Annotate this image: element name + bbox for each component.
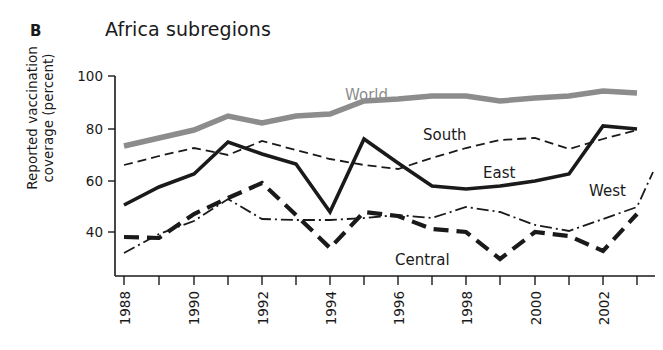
y-tick-label-80: 80 (86, 121, 103, 137)
series-line-west (124, 172, 653, 253)
y-tick-label-40: 40 (86, 224, 103, 240)
x-tick-label-1994: 1994 (323, 291, 339, 325)
series-label-south: South (423, 126, 467, 144)
x-tick-label-1990: 1990 (186, 291, 202, 325)
series-line-central (124, 183, 637, 259)
x-tick-label-1998: 1998 (459, 291, 475, 325)
series-label-west: West (589, 182, 626, 200)
x-tick-label-1988: 1988 (117, 291, 133, 325)
series-label-central: Central (395, 251, 450, 269)
x-tick-label-1996: 1996 (391, 291, 407, 325)
series-line-east (124, 126, 637, 212)
x-tick-label-2002: 2002 (596, 291, 612, 325)
y-tick-label-100: 100 (77, 68, 103, 84)
plot-area: 100 80 60 40 1988 1990 1992 1994 1 (0, 0, 663, 350)
y-tick-label-60: 60 (86, 173, 103, 189)
series-label-world: World (345, 86, 388, 104)
x-tick-label-2000: 2000 (528, 291, 544, 325)
chart-figure: B Africa subregions Reported vaccination… (0, 0, 663, 350)
x-tick-label-1992: 1992 (255, 291, 271, 325)
x-tick-marks (124, 276, 637, 285)
series-label-east: East (483, 164, 515, 182)
